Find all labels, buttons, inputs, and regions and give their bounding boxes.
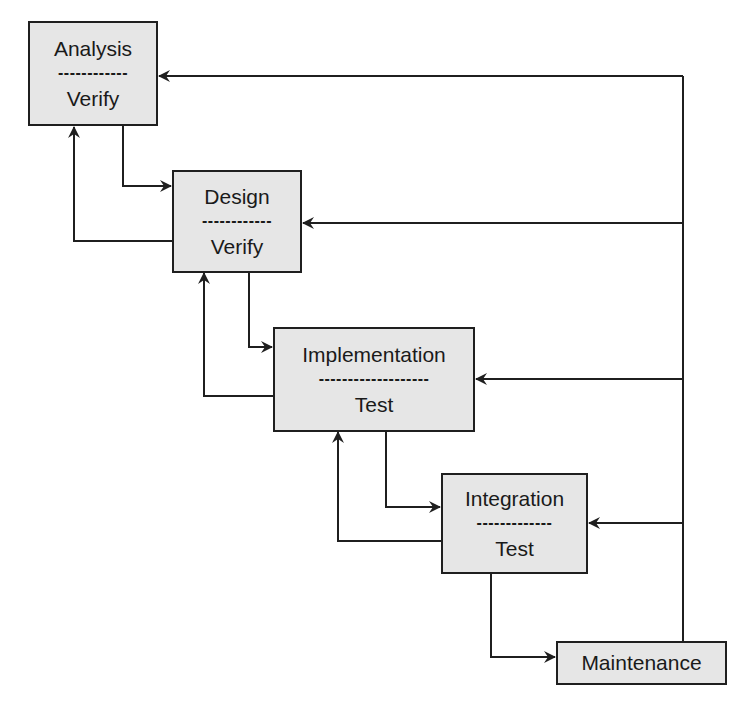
stage-separator: ------------ bbox=[202, 214, 272, 228]
arrow-integration-to-maintenance bbox=[491, 573, 555, 657]
stage-separator: ------------ bbox=[58, 66, 128, 80]
arrow-design-to-implementation bbox=[249, 272, 272, 347]
stage-implementation: Implementation ------------------- Test bbox=[273, 327, 475, 432]
stage-integration: Integration ------------- Test bbox=[441, 473, 588, 574]
stage-title: Integration bbox=[465, 486, 564, 512]
stage-analysis: Analysis ------------ Verify bbox=[28, 21, 158, 126]
stage-design: Design ------------ Verify bbox=[172, 170, 302, 273]
stage-title: Implementation bbox=[302, 342, 446, 368]
stage-title: Maintenance bbox=[581, 650, 701, 676]
stage-activity: Verify bbox=[211, 234, 264, 260]
stage-maintenance: Maintenance bbox=[556, 641, 727, 685]
stage-activity: Test bbox=[355, 392, 394, 418]
arrow-implementation-to-integration bbox=[386, 432, 440, 507]
stage-title: Analysis bbox=[54, 36, 132, 62]
stage-activity: Verify bbox=[67, 86, 120, 112]
stage-separator: ------------- bbox=[477, 516, 553, 530]
arrow-analysis-to-design bbox=[123, 125, 171, 186]
stage-title: Design bbox=[204, 184, 269, 210]
stage-separator: ------------------- bbox=[319, 372, 430, 386]
stage-activity: Test bbox=[495, 536, 534, 562]
arrow-integration-back-to-implementation bbox=[338, 432, 441, 541]
arrow-implementation-back-to-design bbox=[204, 273, 273, 396]
